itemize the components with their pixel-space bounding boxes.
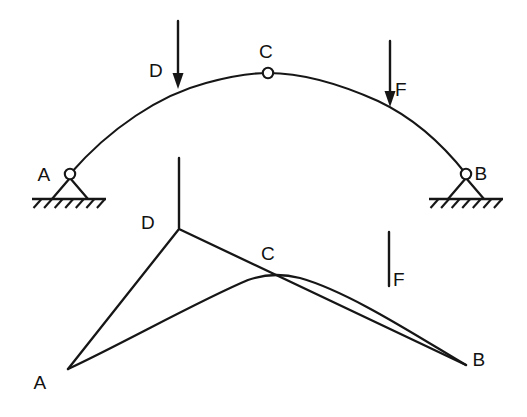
hatch-stroke — [65, 199, 73, 208]
support-a-triangle — [52, 178, 88, 199]
load-arrow-f-group — [385, 41, 396, 107]
label-load-f: F — [395, 79, 407, 100]
label-support-a: A — [38, 164, 51, 185]
hatch-stroke — [76, 199, 84, 208]
deflected-arch-curve — [68, 275, 466, 369]
hatch-stroke — [55, 199, 63, 208]
label-load-d: D — [149, 60, 163, 81]
hatch-stroke — [86, 199, 94, 208]
pin-hinge-a-circle — [65, 169, 75, 179]
label-point-d: D — [141, 212, 155, 233]
engineering-diagram: A B C D F A B C D F — [0, 0, 527, 417]
support-a-hatching — [34, 199, 105, 208]
load-arrow-d-head — [173, 73, 184, 89]
upper-diagram-group: A B C D F — [32, 21, 503, 208]
label-point-f: F — [393, 269, 405, 290]
hatch-stroke — [97, 199, 105, 208]
label-point-a: A — [34, 372, 47, 393]
hatch-stroke — [441, 199, 449, 208]
pin-hinge-b-circle — [461, 169, 471, 179]
hatch-stroke — [431, 199, 439, 208]
label-point-b: B — [473, 349, 486, 370]
hatch-stroke — [483, 199, 491, 208]
hatch-stroke — [44, 199, 52, 208]
hatch-stroke — [34, 199, 42, 208]
crown-hinge-c-circle — [263, 68, 273, 78]
hatch-stroke — [494, 199, 502, 208]
label-point-c: C — [261, 243, 275, 264]
label-crown-hinge-c: C — [259, 41, 273, 62]
pin-support-b-group — [429, 169, 503, 208]
load-arrow-d-group — [173, 21, 184, 89]
support-b-hatching — [431, 199, 502, 208]
hatch-stroke — [462, 199, 470, 208]
lower-diagram-group: A B C D F — [34, 158, 486, 393]
hatch-stroke — [452, 199, 460, 208]
figure-root: A B C D F A B C D F — [0, 0, 527, 417]
hatch-stroke — [473, 199, 481, 208]
label-support-b: B — [475, 163, 488, 184]
